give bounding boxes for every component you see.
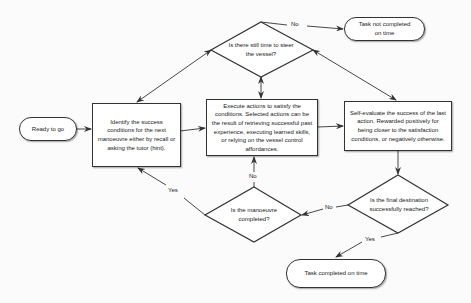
edge-execute-evaluate <box>318 126 343 127</box>
edge-label-destination-yes: Yes <box>364 236 376 242</box>
edge-identify-execute <box>180 128 205 131</box>
edge-destination-success <box>381 233 398 237</box>
terminal-ready-to-go-label: Ready to go <box>32 125 64 134</box>
process-self-evaluate: Self-evaluate the success of the last ac… <box>344 101 452 151</box>
process-identify-label: Identify the success conditions for the … <box>97 118 176 152</box>
process-execute-actions: Execute actions to satisfy the condition… <box>206 99 318 156</box>
edge-time-identify <box>137 50 211 102</box>
decision-manoeuvre-check-label: Is the manoeuvre completed? <box>222 203 286 227</box>
terminal-task-completed: Task completed on time <box>286 259 386 288</box>
terminal-success-label: Task completed on time <box>304 269 367 278</box>
edge-label-destination-no: No <box>324 204 334 210</box>
edge-destination-manoeuvre <box>336 205 348 207</box>
process-execute-label: Execute actions to satisfy the condition… <box>211 102 313 154</box>
edge-time-evaluate <box>313 50 396 100</box>
edge-label-manoeuvre-yes: Yes <box>167 187 179 193</box>
edge-label-manoeuvre-no: No <box>248 173 258 179</box>
terminal-ready-to-go: Ready to go <box>19 117 77 141</box>
edge-label-time-no: No <box>290 21 300 27</box>
decision-destination-check-label: Is the final destination successfully re… <box>362 193 436 217</box>
edge-manoeuvre-identify <box>184 198 205 215</box>
terminal-task-not-completed: Task not completed on time <box>344 17 425 41</box>
terminal-fail-label: Task not completed on time <box>357 20 412 37</box>
process-evaluate-label: Self-evaluate the success of the last ac… <box>349 109 447 143</box>
decision-time-check-label: Is there still time to steer the vessel? <box>228 38 294 62</box>
process-identify-conditions: Identify the success conditions for the … <box>92 103 181 167</box>
